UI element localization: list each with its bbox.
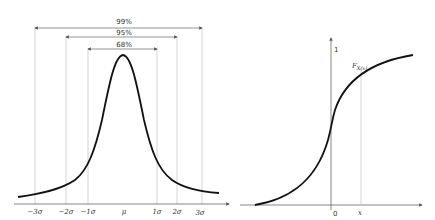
- label-68: 68%: [116, 41, 132, 49]
- tick-m2: −2σ: [58, 208, 73, 216]
- label-99: 99%: [116, 18, 132, 26]
- cdf-label: FX(x): [351, 62, 367, 71]
- tick-s2: 2σ: [171, 208, 181, 216]
- tick-s3: 3σ: [195, 209, 204, 217]
- tick-zero: 0: [333, 210, 337, 218]
- tick-mu: μ: [122, 208, 127, 216]
- tick-m1: −1σ: [80, 208, 95, 216]
- tick-s1: 1σ: [152, 208, 161, 216]
- sigma-guides: [35, 28, 202, 204]
- pdf-chart: 99% 95% 68% −3σ −2σ −1σ μ 1σ 2σ 3σ: [14, 18, 229, 217]
- cdf-curve: [255, 55, 413, 205]
- tick-x: x: [358, 209, 362, 217]
- cdf-chart: 1 0 x FX(x): [240, 38, 422, 218]
- label-95: 95%: [116, 29, 132, 37]
- tick-m3: −3σ: [27, 208, 42, 216]
- pdf-curve: [18, 55, 219, 197]
- tick-one: 1: [334, 46, 338, 54]
- figure: 99% 95% 68% −3σ −2σ −1σ μ 1σ 2σ 3σ 1 0 x…: [0, 0, 435, 220]
